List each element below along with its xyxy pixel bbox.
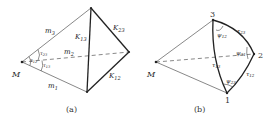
label-m3: m3	[45, 27, 55, 36]
label-t12-a: τ12	[30, 57, 38, 64]
label-p23: ψ23	[226, 77, 236, 85]
label-t13-a: τ13	[43, 62, 51, 69]
panel-b: M 3 2 1 ψ12 ψ31 ψ23 τ23 τ13 τ12 (b)	[146, 10, 263, 114]
edge-k12	[87, 52, 129, 92]
vertex-2	[253, 53, 255, 55]
vertex-right	[128, 51, 130, 53]
label-vertex-3: 3	[210, 10, 215, 19]
label-m1: m1	[48, 82, 58, 91]
label-t23-b: τ23	[237, 27, 246, 35]
edge-k13	[87, 8, 91, 92]
label-K23: K23	[112, 24, 125, 33]
label-t12-b: τ12	[246, 70, 255, 78]
panel-a: M m3 m2 m1 K13 K23 K12 τ23 τ12 τ13 (a)	[11, 7, 130, 114]
angle-arc-p31	[247, 47, 248, 59]
label-K12: K12	[108, 72, 121, 81]
caption-a: (a)	[66, 105, 77, 114]
edge-M3	[156, 20, 213, 62]
angle-arc-p12	[216, 26, 223, 31]
label-M-a: M	[11, 70, 21, 79]
label-vertex-1: 1	[225, 96, 230, 105]
label-K13: K13	[74, 33, 87, 42]
vertex-m	[21, 61, 24, 64]
vertex-bottom	[86, 91, 88, 93]
label-p31: ψ31	[236, 49, 246, 57]
label-t23-a: τ23	[40, 50, 48, 57]
label-p12: ψ12	[217, 31, 227, 39]
vertex-1	[226, 92, 228, 94]
diagram-canvas: M m3 m2 m1 K13 K23 K12 τ23 τ12 τ13 (a) M…	[0, 0, 276, 121]
vertex-top	[90, 7, 92, 9]
vertex-3	[212, 19, 214, 21]
vertex-M-b	[155, 61, 158, 64]
caption-b: (b)	[194, 105, 205, 114]
label-m2: m2	[64, 48, 74, 57]
label-M-b: M	[146, 70, 156, 79]
label-vertex-2: 2	[258, 51, 263, 60]
